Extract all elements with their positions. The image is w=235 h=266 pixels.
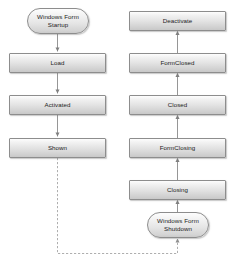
node-label: Load bbox=[49, 59, 67, 67]
node-windows-form-shutdown[interactable]: Windows Form Shutdown bbox=[147, 212, 209, 238]
node-activated[interactable]: Activated bbox=[9, 95, 106, 115]
node-formclosing[interactable]: FormClosing bbox=[129, 138, 226, 158]
node-label: Closing bbox=[165, 186, 190, 194]
node-formclosed[interactable]: FormClosed bbox=[129, 53, 226, 73]
node-label: Deactivate bbox=[161, 17, 195, 25]
node-shown[interactable]: Shown bbox=[9, 138, 106, 158]
node-closing[interactable]: Closing bbox=[129, 180, 226, 200]
node-label: Closed bbox=[166, 101, 190, 109]
node-label: FormClosed bbox=[158, 59, 196, 67]
flowchart-canvas: Windows Form Startup Load Activated Show… bbox=[0, 0, 235, 266]
node-label: Shown bbox=[46, 144, 69, 152]
node-label: FormClosing bbox=[158, 144, 198, 152]
node-label: Windows Form Startup bbox=[35, 13, 81, 29]
edge-shown-to-shutdown-dashed bbox=[58, 158, 178, 254]
node-closed[interactable]: Closed bbox=[129, 95, 226, 115]
node-deactivate[interactable]: Deactivate bbox=[129, 11, 226, 31]
node-windows-form-startup[interactable]: Windows Form Startup bbox=[27, 8, 89, 34]
node-load[interactable]: Load bbox=[9, 53, 106, 73]
node-label: Windows Form Shutdown bbox=[155, 217, 201, 233]
node-label: Activated bbox=[43, 101, 73, 109]
